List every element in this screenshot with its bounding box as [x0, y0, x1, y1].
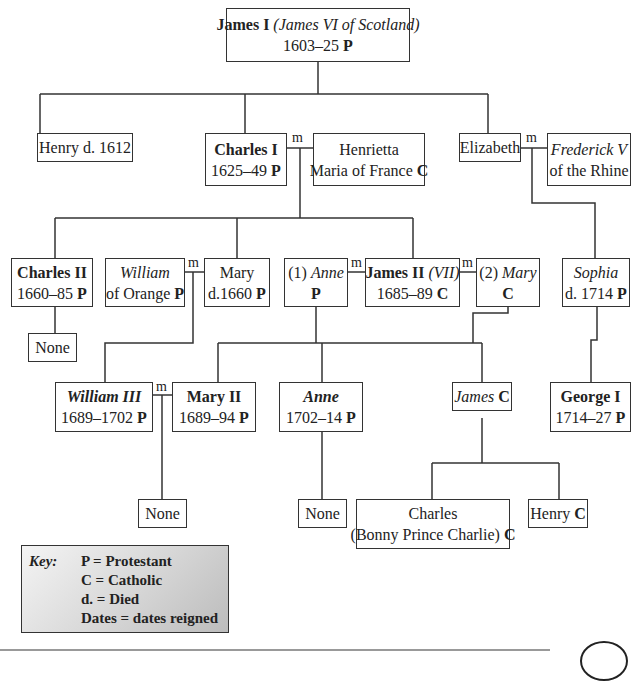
person-sophia: Sophia d. 1714 P	[562, 258, 630, 307]
person-frederick-v: Frederick V of the Rhine	[547, 133, 631, 186]
key-item: d. = Died	[81, 590, 218, 609]
legend-key: Key: P = Protestant C = Catholic d. = Di…	[21, 545, 229, 633]
religion: P	[137, 409, 147, 426]
reign-dates: 1702–14	[286, 409, 342, 426]
name: William III	[67, 386, 142, 407]
person-henrietta-maria: Henrietta Maria of France C	[313, 133, 425, 186]
name: James I	[216, 16, 269, 33]
person-charles-i: Charles I 1625–49 P	[205, 133, 287, 186]
religion: P	[616, 409, 626, 426]
religion: C	[504, 526, 516, 543]
name: Elizabeth	[460, 137, 520, 158]
person-henry-c: Henry C	[528, 499, 588, 528]
name: Charles II	[17, 262, 87, 283]
name: Frederick V	[551, 139, 627, 160]
religion: P	[271, 162, 281, 179]
none-label: None	[305, 503, 340, 524]
title: of Orange	[106, 285, 170, 302]
religion: C	[417, 162, 429, 179]
name: James	[454, 388, 494, 405]
name: James II	[365, 264, 424, 281]
died-date: d.1660	[208, 285, 252, 302]
marriage-label: m	[156, 380, 167, 394]
title: of the Rhine	[549, 160, 628, 181]
religion: P	[346, 409, 356, 426]
person-anne-hyde: (1) Anne P	[284, 258, 348, 307]
person-charles-bonny-prince-charlie: Charles (Bonny Prince Charlie) C	[356, 499, 510, 549]
person-william-of-orange: William of Orange P	[105, 258, 185, 307]
died-date: d. 1714	[565, 285, 613, 302]
key-item: C = Catholic	[81, 571, 218, 590]
person-anne: Anne 1702–14 P	[279, 382, 363, 432]
reign-dates: 1603–25	[283, 37, 339, 54]
reign-dates: 1714–27	[556, 409, 612, 426]
alt-title: (James VI of Scotland)	[273, 16, 419, 33]
person-charles-ii: Charles II 1660–85 P	[11, 258, 93, 307]
nickname: (Bonny Prince Charlie)	[351, 526, 500, 543]
religion: C	[498, 388, 510, 405]
footer-divider	[0, 649, 550, 651]
religion: C	[502, 283, 514, 304]
name: William	[120, 262, 170, 283]
name: George I	[561, 386, 621, 407]
key-item: Dates = dates reigned	[81, 609, 218, 628]
name: Charles I	[214, 139, 278, 160]
religion: P	[77, 285, 87, 302]
reign-dates: 1625–49	[211, 162, 267, 179]
issue-none: None	[138, 499, 187, 528]
name: Sophia	[574, 262, 618, 283]
issue-none: None	[298, 499, 347, 528]
person-george-i: George I 1714–27 P	[550, 382, 631, 432]
key-items: P = Protestant C = Catholic d. = Died Da…	[81, 552, 218, 628]
marriage-label: m	[292, 131, 303, 145]
none-label: None	[145, 503, 180, 524]
person-mary-of-modena: (2) Mary C	[476, 258, 540, 307]
name: Mary	[502, 264, 537, 281]
person-mary-1660: Mary d.1660 P	[204, 258, 270, 307]
reign-dates: 1660–85	[17, 285, 73, 302]
religion: C	[437, 285, 449, 302]
name: Charles	[409, 503, 458, 524]
religion: P	[256, 285, 266, 302]
marriage-label: m	[462, 256, 473, 270]
name: Henry	[39, 139, 79, 156]
title: Maria of France	[310, 162, 413, 179]
religion: C	[574, 505, 586, 522]
marriage-order: (1)	[288, 264, 307, 281]
name: Anne	[311, 264, 344, 281]
died-date: d. 1612	[83, 139, 131, 156]
person-elizabeth: Elizabeth	[459, 133, 521, 162]
person-james-ii: James II (VII) 1685–89 C	[365, 258, 460, 307]
marriage-label: m	[351, 256, 362, 270]
religion: P	[239, 409, 249, 426]
name: Anne	[303, 386, 339, 407]
none-label: None	[35, 337, 70, 358]
religion: P	[617, 285, 627, 302]
reign-dates: 1689–94	[179, 409, 235, 426]
name: Mary II	[187, 386, 242, 407]
key-label: Key:	[29, 552, 57, 571]
marriage-label: m	[188, 256, 199, 270]
person-mary-ii: Mary II 1689–94 P	[172, 382, 256, 432]
issue-none: None	[28, 333, 77, 362]
religion: P	[174, 285, 184, 302]
name: Mary	[220, 262, 255, 283]
marriage-label: m	[526, 131, 537, 145]
name: Henry	[530, 505, 570, 522]
reign-dates: 1685–89	[377, 285, 433, 302]
key-item: P = Protestant	[81, 552, 218, 571]
marriage-order: (2)	[479, 264, 498, 281]
reign-dates: 1689–1702	[61, 409, 133, 426]
person-james-old-pretender: James C	[452, 382, 512, 411]
person-william-iii: William III 1689–1702 P	[55, 382, 153, 432]
person-henry-1612: Henry d. 1612	[37, 133, 133, 162]
alt-title: (VII)	[429, 264, 460, 281]
name: Henrietta	[339, 139, 399, 160]
religion: P	[343, 37, 353, 54]
person-james-i: James I (James VI of Scotland) 1603–25 P	[226, 8, 410, 62]
religion: P	[311, 283, 321, 304]
page-number-circle-icon	[580, 641, 628, 681]
